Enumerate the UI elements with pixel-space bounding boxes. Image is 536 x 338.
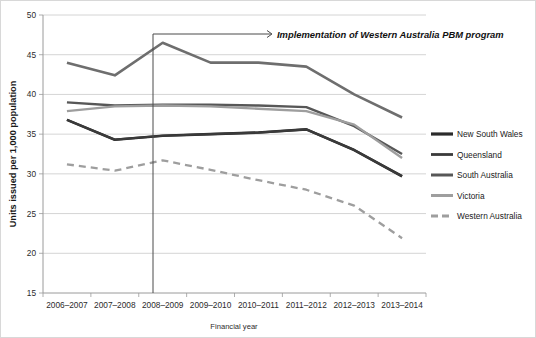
x-tick-label: 2007–2008 [94,300,136,310]
x-tick-label: 2012–2013 [333,300,375,310]
legend-label-western-australia: Western Australia [457,211,522,221]
x-axis-ticks-group: 2006–20072007–20082008–20092009–20102010… [43,293,426,310]
line-chart: 1520253035404550 2006–20072007–20082008–… [1,1,536,338]
y-tick-label: 30 [27,169,37,179]
series-group [67,43,402,238]
y-tick-label: 40 [27,89,37,99]
legend-label-victoria: Victoria [457,191,485,201]
x-tick-label: 2009–2010 [190,300,232,310]
y-tick-label: 20 [27,248,37,258]
x-tick-label: 2006–2007 [46,300,88,310]
x-axis-title: Financial year [210,322,258,331]
series-line-queensland [67,120,402,176]
pbm-annotation-label: Implementation of Western Australia PBM … [277,29,504,40]
y-axis-ticks-group: 1520253035404550 [27,10,43,298]
y-tick-label: 25 [27,209,37,219]
y-tick-label: 50 [27,10,37,20]
series-line-western-australia [67,160,402,238]
chart-figure: 1520253035404550 2006–20072007–20082008–… [0,0,536,338]
x-tick-label: 2013–2014 [381,300,423,310]
x-tick-label: 2011–2012 [286,300,327,310]
y-axis-title: Units issued per 1,000 population [8,80,18,227]
x-tick-label: 2008–2009 [142,300,184,310]
x-tick-label: 2010–2011 [238,300,279,310]
y-tick-label: 45 [27,50,37,60]
legend-label-queensland: Queensland [457,150,502,160]
series-line-south-australia [67,102,402,154]
legend-label-new-south-wales: New South Wales [457,129,523,139]
y-tick-label: 15 [27,288,37,298]
legend-label-south-australia: South Australia [457,170,513,180]
y-tick-label: 35 [27,129,37,139]
legend: New South WalesQueenslandSouth Australia… [431,129,523,221]
